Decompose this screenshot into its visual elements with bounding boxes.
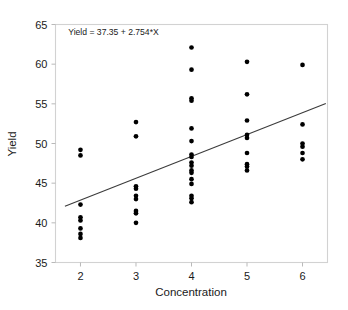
data-point xyxy=(134,220,139,225)
data-point xyxy=(245,92,250,97)
data-point xyxy=(189,171,194,176)
y-tick-label: 45 xyxy=(35,177,47,189)
data-point xyxy=(78,236,83,241)
x-tick-label: 4 xyxy=(188,270,194,282)
data-point xyxy=(189,98,194,103)
data-point xyxy=(245,151,250,156)
data-point xyxy=(189,67,194,72)
data-point xyxy=(245,118,250,123)
data-point xyxy=(134,186,139,191)
y-tick-label: 65 xyxy=(35,19,47,31)
y-tick-label: 60 xyxy=(35,58,47,70)
data-point xyxy=(189,45,194,50)
data-point xyxy=(189,155,194,160)
data-point xyxy=(189,200,194,205)
data-point xyxy=(189,177,194,182)
data-point xyxy=(134,134,139,139)
data-point xyxy=(245,168,250,173)
data-point xyxy=(134,211,139,216)
data-point xyxy=(245,136,250,141)
y-tick-label: 40 xyxy=(35,217,47,229)
y-tick-label: 55 xyxy=(35,98,47,110)
data-point xyxy=(78,202,83,207)
y-tick-label: 50 xyxy=(35,138,47,150)
data-point xyxy=(189,139,194,144)
data-point xyxy=(300,144,305,149)
data-point xyxy=(134,197,139,202)
x-axis-title: Concentration xyxy=(155,286,227,298)
data-point xyxy=(78,218,83,223)
data-point xyxy=(300,157,305,162)
x-tick-label: 6 xyxy=(299,270,305,282)
data-point xyxy=(300,63,305,68)
data-point xyxy=(78,226,83,231)
data-point xyxy=(78,147,83,152)
y-axis-title: Yield xyxy=(6,131,18,156)
y-tick-label: 35 xyxy=(35,257,47,269)
x-tick-label: 2 xyxy=(77,270,83,282)
data-point xyxy=(300,151,305,156)
data-point xyxy=(134,120,139,125)
data-point xyxy=(300,122,305,127)
data-point xyxy=(189,182,194,187)
data-point xyxy=(78,153,83,158)
chart-background xyxy=(0,0,348,310)
regression-equation-annotation: Yield = 37.35 + 2.754*X xyxy=(68,27,159,37)
data-point xyxy=(189,163,194,168)
data-point xyxy=(189,126,194,131)
x-tick-label: 5 xyxy=(244,270,250,282)
chart-figure: 35404550556065 23456 Yield = 37.35 + 2.7… xyxy=(0,0,348,310)
data-point xyxy=(245,59,250,64)
scatter-plot-svg: 35404550556065 23456 Yield = 37.35 + 2.7… xyxy=(0,0,348,310)
x-tick-label: 3 xyxy=(133,270,139,282)
